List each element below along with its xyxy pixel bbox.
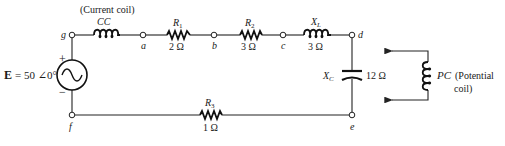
node-g — [69, 32, 75, 38]
xl-name: XL — [310, 16, 321, 29]
arrow-left-top — [392, 51, 428, 62]
node-g-label: g — [61, 29, 66, 40]
source-value: = 50 ∠0° — [15, 69, 57, 81]
ac-voltage-source: + − E = 50 ∠0° — [4, 52, 87, 99]
node-c — [280, 32, 286, 38]
node-a-label: a — [141, 40, 146, 51]
resistor-icon — [240, 31, 262, 39]
node-f-label: f — [69, 121, 73, 132]
r2-name: R2 — [244, 17, 255, 30]
node-d-label: d — [358, 29, 364, 40]
current-coil: (Current coil) CC — [80, 4, 135, 37]
node-d — [349, 32, 355, 38]
resistor-icon — [200, 111, 222, 119]
inductor-icon — [94, 30, 120, 35]
current-coil-name: CC — [97, 16, 111, 27]
node-c-label: c — [281, 40, 286, 51]
r1-name: R1 — [172, 17, 183, 30]
coil-icon — [423, 62, 428, 90]
r1-value: 2 Ω — [169, 41, 184, 52]
capacitor-xc: XC 12 Ω — [322, 70, 386, 83]
node-b-label: b — [212, 40, 217, 51]
node-f — [69, 112, 75, 118]
xc-value: 12 Ω — [366, 70, 386, 81]
current-coil-caption: (Current coil) — [80, 4, 135, 16]
inductor-icon — [304, 30, 331, 35]
arrow-left-bottom — [392, 90, 428, 100]
node-a — [140, 32, 146, 38]
potential-coil: PC (Potential coil) — [392, 51, 494, 100]
r3-name: R3 — [204, 97, 215, 110]
circuit-diagram: + − E = 50 ∠0° (Current coil) CC R1 2 Ω … — [0, 0, 505, 146]
r3-value: 1 Ω — [203, 122, 218, 133]
source-label: E — [4, 68, 12, 82]
resistor-r2: R2 3 Ω — [240, 17, 262, 52]
pc-caption-line1: (Potential — [455, 70, 494, 82]
source-plus-sign: + — [59, 52, 66, 66]
pc-name: PC — [436, 69, 452, 81]
resistor-r3: R3 1 Ω — [200, 97, 222, 133]
node-b — [211, 32, 217, 38]
resistor-icon — [167, 31, 190, 39]
inductor-xl: XL 3 Ω — [304, 16, 331, 52]
node-e — [349, 112, 355, 118]
resistor-r1: R1 2 Ω — [167, 17, 190, 52]
pc-caption-line2: coil) — [454, 83, 472, 95]
node-e-label: e — [350, 121, 355, 132]
xl-value: 3 Ω — [308, 41, 323, 52]
xc-name: XC — [322, 70, 334, 83]
source-minus-sign: − — [59, 85, 66, 99]
r2-value: 3 Ω — [241, 41, 256, 52]
